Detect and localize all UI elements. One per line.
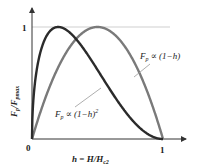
annotation-linear: Fp ∝ (1−h) [139, 51, 180, 62]
chart: 0 1 1 h = H/Hc2 Fp/Fpmax Fp ∝ (1−h) Fp ∝… [0, 0, 206, 167]
tick-label-x-one: 1 [160, 145, 165, 155]
tick-label-origin: 0 [26, 143, 31, 153]
x-axis-label: h = H/Hc2 [72, 154, 109, 165]
tick-label-y-one: 1 [22, 23, 27, 33]
y-axis-label: Fp/Fpmax [9, 86, 20, 118]
leader-line-2 [75, 88, 101, 107]
curve-linear-1-minus-h [32, 27, 163, 139]
annotation-quadratic: Fp ∝ (1−h)2 [54, 108, 98, 120]
